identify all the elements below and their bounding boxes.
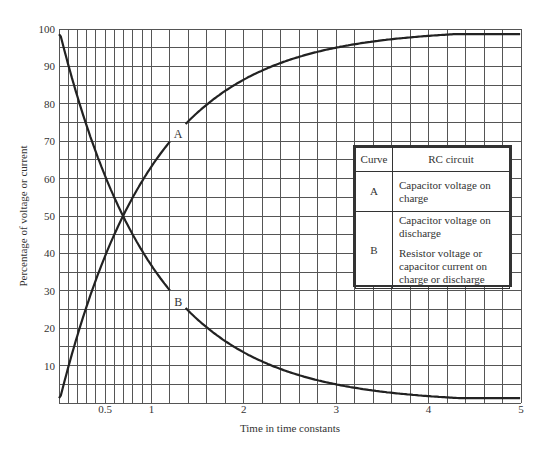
y-tick-label: 60: [44, 173, 56, 185]
y-tick-label: 20: [44, 322, 56, 334]
x-tick-label: 1: [149, 403, 155, 415]
x-tick-label: 2: [241, 403, 247, 415]
legend-desc-b-2: Resistor voltage or capacitor current on…: [399, 247, 503, 286]
legend-curve-a: A: [356, 172, 393, 212]
x-tick-label: 3: [333, 403, 339, 415]
curve-labels: AB: [174, 127, 183, 309]
legend-row-a: A Capacitor voltage on charge: [356, 172, 510, 212]
legend-desc-a: Capacitor voltage on charge: [393, 172, 510, 212]
x-axis-ticks: 0.512345: [98, 403, 524, 415]
y-axis-label: Percentage of voltage or current: [17, 145, 29, 286]
y-tick-label: 40: [44, 247, 56, 259]
y-tick-label: 70: [44, 135, 56, 147]
curve-label-b: B: [174, 295, 182, 309]
y-tick-label: 10: [44, 360, 56, 372]
y-tick-label: 30: [44, 285, 56, 297]
y-tick-label: 50: [44, 210, 56, 222]
legend-curve-b: B: [356, 212, 393, 289]
legend-header-circuit: RC circuit: [393, 148, 510, 172]
y-tick-label: 100: [39, 23, 56, 35]
x-tick-label: 5: [518, 403, 524, 415]
x-tick-label: 0.5: [98, 403, 112, 415]
legend-desc-b: Capacitor voltage on discharge Resistor …: [393, 212, 510, 289]
curve-label-a: A: [174, 127, 183, 141]
x-tick-label: 4: [426, 403, 432, 415]
y-tick-label: 90: [44, 60, 56, 72]
legend-table: Curve RC circuit A Capacitor voltage on …: [353, 145, 512, 287]
x-axis-label: Time in time constants: [240, 422, 340, 434]
legend-desc-b-1: Capacitor voltage on discharge: [399, 214, 503, 240]
legend-row-b: B Capacitor voltage on discharge Resisto…: [356, 212, 510, 289]
legend-header-curve: Curve: [356, 148, 393, 172]
y-axis-ticks: 102030405060708090100: [39, 23, 56, 372]
y-tick-label: 80: [44, 98, 56, 110]
